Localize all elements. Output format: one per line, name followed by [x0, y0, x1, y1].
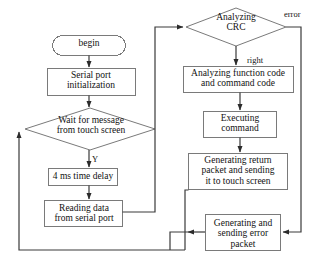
- edge-label-error: error: [284, 10, 301, 19]
- edge-label-yes: Y: [92, 155, 98, 164]
- node-genret-shape: [189, 154, 288, 190]
- node-generr-shape: [206, 215, 281, 251]
- node-wait-shape: [25, 108, 155, 150]
- node-func-shape: [184, 67, 294, 93]
- edge-label-right: right: [247, 56, 263, 65]
- node-begin-shape: [53, 36, 126, 56]
- edge-reading-to-crc: [123, 27, 184, 212]
- node-reading-shape: [45, 201, 123, 227]
- node-serial-shape: [48, 69, 136, 96]
- flowchart-graphics: [0, 0, 320, 270]
- flowchart-canvas: begin Serial port initialization Wait fo…: [0, 0, 320, 270]
- edge-bottom-rail-to-wait: [19, 132, 185, 250]
- edge-crc-error-to-generr: [283, 27, 301, 232]
- node-exec-shape: [204, 112, 277, 138]
- node-delay-shape: [49, 169, 118, 186]
- node-crc-shape: [186, 8, 286, 46]
- edge-genret-to-bottom-rail: [185, 190, 189, 250]
